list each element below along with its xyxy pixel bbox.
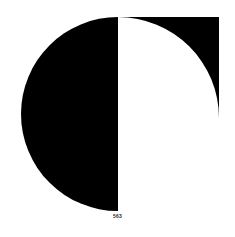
page-number: 563 — [0, 213, 235, 220]
figure-svg — [0, 0, 235, 212]
scanned-page: 563 — [0, 0, 235, 237]
figure-illustration — [0, 0, 235, 212]
